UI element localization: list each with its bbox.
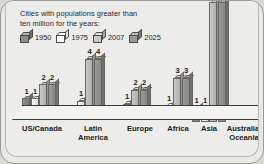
bar-value-label: 4	[93, 47, 103, 56]
bar	[218, 2, 226, 122]
chart-frame: Cities with populations greater than ten…	[0, 0, 264, 164]
chart-floor-axis	[12, 107, 259, 120]
category-axis-labels: US/CanadaLatinAmericaEuropeAfricaAsiaAus…	[6, 122, 259, 148]
category-label: LatinAmerica	[68, 124, 118, 143]
category-label-line-1: Europe	[118, 124, 162, 133]
bar-value-label: 2	[139, 78, 149, 87]
category-label: US/Canada	[14, 124, 70, 133]
bar-value-label: 3	[181, 66, 191, 75]
category-label-line-1: US/Canada	[14, 124, 70, 133]
category-label-line-1: Latin	[68, 124, 118, 133]
bar	[209, 2, 217, 122]
category-label: Australia/Oceania	[220, 124, 259, 143]
bar-value-label: 2	[47, 73, 57, 82]
chart-inner-panel: Cities with populations greater than ten…	[5, 1, 259, 157]
category-label-line-2: Oceania	[220, 133, 259, 142]
category-label-line-2: America	[68, 133, 118, 142]
category-label-line-1: Australia/	[220, 124, 259, 133]
category-label: Europe	[118, 124, 162, 133]
